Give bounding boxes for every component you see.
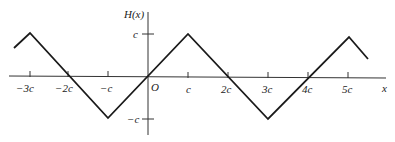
x-axis-label: x — [381, 82, 387, 94]
ytick-label-neg-c: −c — [127, 113, 139, 125]
xtick-label: c — [186, 83, 191, 95]
xtick-label: 3c — [261, 83, 273, 95]
xtick-label: 2c — [221, 83, 232, 95]
xtick-label: −c — [100, 82, 112, 94]
y-axis-label: H(x) — [123, 8, 144, 21]
xtick-label: −2c — [55, 82, 73, 94]
xtick-label: −3c — [16, 82, 34, 94]
xtick-label: 5c — [342, 83, 353, 95]
triangle-wave-chart: H(x) x O c −c −3c −2c −c c 2c 3c 4c 5c — [0, 0, 395, 142]
x-axis — [9, 76, 386, 78]
origin-label: O — [151, 81, 159, 93]
ytick-label-c: c — [133, 28, 138, 40]
xtick-label: 4c — [302, 83, 313, 95]
